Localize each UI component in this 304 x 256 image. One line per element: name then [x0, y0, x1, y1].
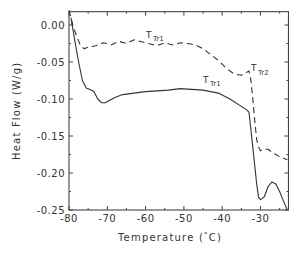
y-tick-label: -0.20 [37, 168, 65, 179]
annotation-subscript: Tr1 [152, 35, 164, 43]
x-tick-label: -70 [98, 213, 116, 224]
solid-curve [71, 18, 287, 210]
annotation-letter: T [145, 30, 152, 40]
y-tick-label: 0.00 [41, 20, 65, 31]
x-tick-label: -30 [252, 213, 270, 224]
y-tick-label: -0.25 [37, 205, 65, 216]
dsc-chart: -80-70-60-50-40-300.00-0.05-0.10-0.15-0.… [0, 0, 304, 256]
data-series [69, 10, 287, 210]
plot-frame [69, 12, 288, 210]
plot-border [69, 12, 288, 210]
y-tick-label: -0.05 [37, 57, 65, 68]
y-tick-label: -0.15 [37, 131, 65, 142]
dashed-curve [69, 10, 287, 160]
x-tick-label: -60 [137, 213, 155, 224]
annotation-dashed-ttr1: T Tr1 [145, 30, 164, 43]
x-axis-label: Temperature (°C) [117, 231, 222, 243]
y-tick-label: -0.10 [37, 94, 65, 105]
axis-tick-labels: -80-70-60-50-40-300.00-0.05-0.10-0.15-0.… [37, 20, 270, 225]
annotation-subscript: Tr1 [209, 80, 221, 88]
axis-ticks [69, 12, 288, 210]
annotation-dashed-ttr2: T Tr2 [250, 63, 269, 77]
annotation-letter: T [250, 63, 257, 73]
y-axis-label: Heat Flow (W/g) [11, 62, 22, 160]
annotation-solid-ttr1: T Tr1 [202, 75, 221, 88]
x-tick-label: -50 [175, 213, 193, 224]
annotation-subscript: Tr2 [257, 69, 269, 77]
x-tick-label: -40 [213, 213, 231, 224]
annotation-letter: T [202, 75, 209, 85]
